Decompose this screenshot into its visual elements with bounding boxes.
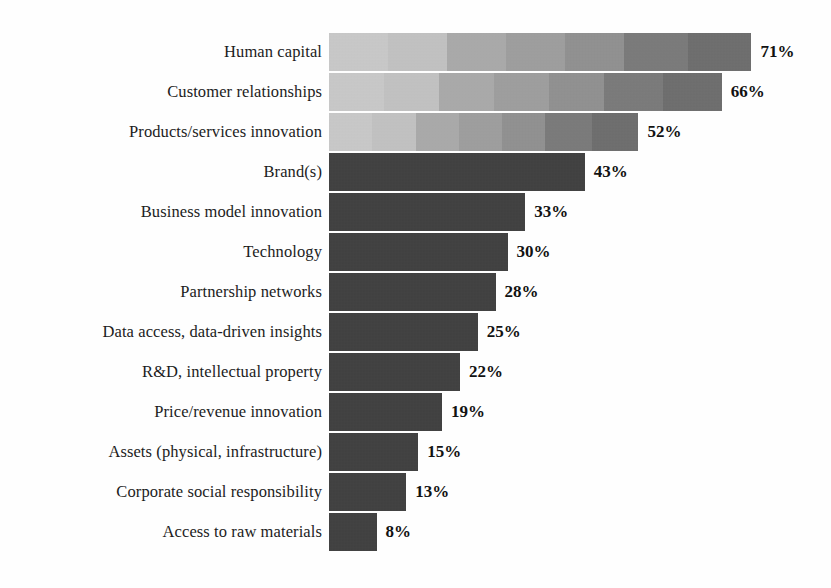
bar-row: Assets (physical, infrastructure)15% (0, 433, 831, 473)
bar-texture (329, 313, 478, 351)
bar-value-label: 8% (377, 513, 412, 551)
bar-texture (329, 473, 406, 511)
bar-row: Price/revenue innovation19% (0, 393, 831, 433)
bar-row: Data access, data-driven insights25% (0, 313, 831, 353)
bar-value-label: 71% (751, 33, 794, 71)
category-label: Data access, data-driven insights (0, 313, 322, 351)
bar-track: 52% (329, 113, 831, 151)
bar-row: Business model innovation33% (0, 193, 831, 233)
category-label: Business model innovation (0, 193, 322, 231)
bar-row: Access to raw materials8% (0, 513, 831, 553)
bar-texture (329, 113, 638, 151)
category-label: Human capital (0, 33, 322, 71)
bar-value-label: 22% (460, 353, 503, 391)
bar (329, 313, 478, 351)
bar-row: R&D, intellectual property22% (0, 353, 831, 393)
bar-value-label: 52% (638, 113, 681, 151)
bar-track: 15% (329, 433, 831, 471)
bar-track: 66% (329, 73, 831, 111)
bar (329, 193, 525, 231)
bar (329, 433, 418, 471)
bar-track: 43% (329, 153, 831, 191)
bar (329, 473, 406, 511)
bar (329, 73, 722, 111)
bar-texture (329, 353, 460, 391)
bar-value-label: 33% (525, 193, 568, 231)
bar-texture (329, 233, 508, 271)
bar (329, 233, 508, 271)
category-label: Access to raw materials (0, 513, 322, 551)
bar-value-label: 19% (442, 393, 485, 431)
bar-row: Brand(s)43% (0, 153, 831, 193)
bar (329, 353, 460, 391)
bar-texture (329, 513, 377, 551)
bar-row: Products/services innovation52% (0, 113, 831, 153)
bar-texture (329, 33, 751, 71)
bar-track: 8% (329, 513, 831, 551)
category-label: Partnership networks (0, 273, 322, 311)
bar-row: Customer relationships66% (0, 73, 831, 113)
bar-texture (329, 273, 496, 311)
bar-track: 30% (329, 233, 831, 271)
bar-row: Technology30% (0, 233, 831, 273)
category-label: Technology (0, 233, 322, 271)
bar-row: Human capital71% (0, 33, 831, 73)
bar-track: 28% (329, 273, 831, 311)
bar-row: Partnership networks28% (0, 273, 831, 313)
bar (329, 113, 638, 151)
bar-track: 22% (329, 353, 831, 391)
bar-value-label: 30% (508, 233, 551, 271)
bar-texture (329, 433, 418, 471)
category-label: Price/revenue innovation (0, 393, 322, 431)
bar-track: 13% (329, 473, 831, 511)
bar-value-label: 15% (418, 433, 461, 471)
bar (329, 513, 377, 551)
bar (329, 273, 496, 311)
category-label: R&D, intellectual property (0, 353, 322, 391)
bar-track: 71% (329, 33, 831, 71)
bar-track: 19% (329, 393, 831, 431)
bar (329, 393, 442, 431)
bar-texture (329, 153, 585, 191)
bar-texture (329, 193, 525, 231)
bar-row: Corporate social responsibility13% (0, 473, 831, 513)
bar-track: 25% (329, 313, 831, 351)
bar-track: 33% (329, 193, 831, 231)
category-label: Customer relationships (0, 73, 322, 111)
category-label: Brand(s) (0, 153, 322, 191)
category-label: Products/services innovation (0, 113, 322, 151)
category-label: Assets (physical, infrastructure) (0, 433, 322, 471)
bar-value-label: 25% (478, 313, 521, 351)
bar-value-label: 43% (585, 153, 628, 191)
category-label: Corporate social responsibility (0, 473, 322, 511)
bar-texture (329, 73, 722, 111)
bar-texture (329, 393, 442, 431)
bar (329, 33, 751, 71)
bar-value-label: 28% (496, 273, 539, 311)
bar-value-label: 13% (406, 473, 449, 511)
chart-plot-area: Human capital71%Customer relationships66… (0, 33, 831, 563)
bar (329, 153, 585, 191)
bar-value-label: 66% (722, 73, 765, 111)
bar-chart-figure: Human capital71%Customer relationships66… (0, 0, 831, 588)
